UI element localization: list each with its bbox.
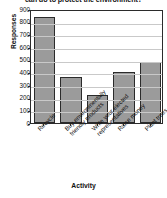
y-tick-label: 100 [4, 108, 30, 114]
bar[interactable] [34, 17, 55, 123]
gridline [31, 24, 162, 25]
y-tick-label: 300 [4, 83, 30, 89]
y-axis: 9008007006005004003002001000 [0, 10, 30, 124]
chart-title: can do to protect the environment? [0, 0, 167, 4]
x-axis-title: Activity [0, 182, 167, 189]
y-tick-label: 600 [4, 45, 30, 51]
gridline [31, 36, 162, 37]
y-tick-label: 700 [4, 32, 30, 38]
x-tick-mark [70, 124, 71, 126]
x-tick-mark [43, 124, 44, 126]
y-tick-label: 800 [4, 19, 30, 25]
gridline [31, 74, 162, 75]
x-axis-category-labels: RecycleBuy environmentallyfriendly produ… [0, 124, 167, 178]
y-tick-label: 500 [4, 57, 30, 63]
x-tick-mark [123, 124, 124, 126]
gridline [31, 87, 162, 88]
y-tick-label: 400 [4, 70, 30, 76]
y-tick-label: 900 [4, 7, 30, 13]
bar-chart: can do to protect the environment? Respo… [0, 0, 167, 198]
x-tick-mark [150, 124, 151, 126]
y-tick-label: 200 [4, 95, 30, 101]
gridline [31, 62, 162, 63]
gridline [31, 49, 162, 50]
x-tick-mark [97, 124, 98, 126]
